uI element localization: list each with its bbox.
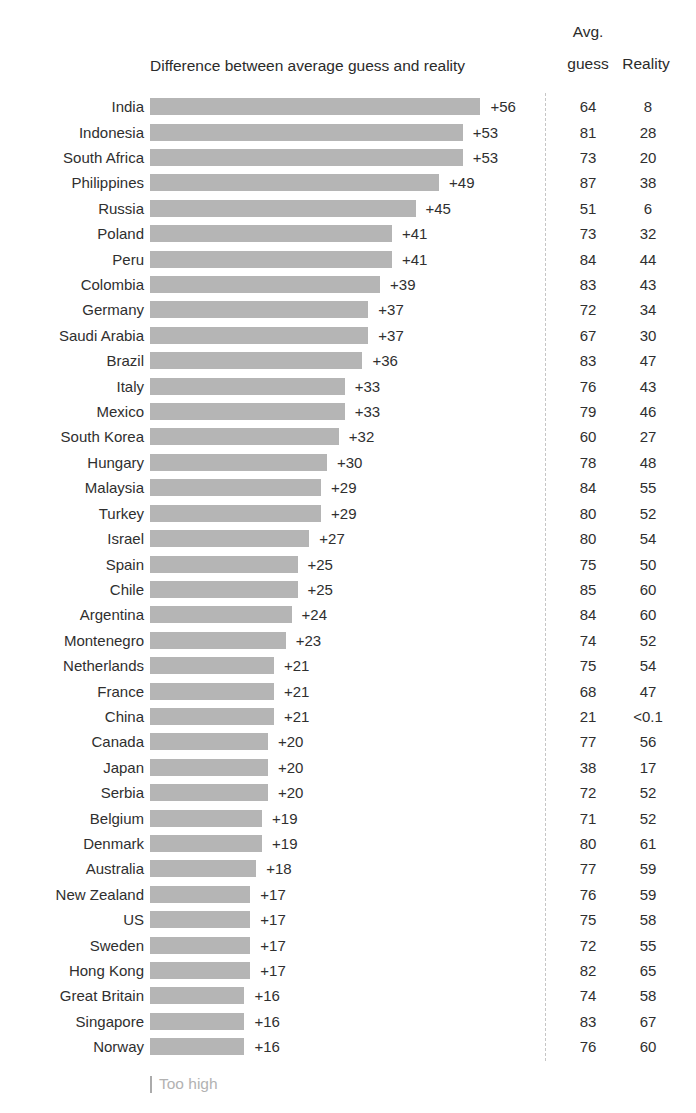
avg-guess-value: 84 bbox=[546, 606, 630, 623]
country-label: Philippines bbox=[0, 174, 144, 191]
avg-guess-value: 87 bbox=[546, 174, 630, 191]
difference-bar bbox=[150, 124, 463, 141]
difference-bar bbox=[150, 454, 327, 471]
avg-guess-value: 67 bbox=[546, 327, 630, 344]
avg-guess-value: 77 bbox=[546, 733, 630, 750]
bar-chart: Difference between average guess and rea… bbox=[0, 0, 696, 1113]
reality-value: 43 bbox=[628, 378, 668, 395]
difference-bar bbox=[150, 962, 250, 979]
avg-guess-value: 74 bbox=[546, 632, 630, 649]
difference-value: +32 bbox=[349, 428, 374, 445]
avg-guess-value: 84 bbox=[546, 479, 630, 496]
bar-area: +27 bbox=[150, 530, 546, 547]
avg-guess-value: 76 bbox=[546, 378, 630, 395]
difference-value: +33 bbox=[355, 403, 380, 420]
legend: Too high bbox=[150, 1075, 218, 1093]
bar-area: +19 bbox=[150, 835, 546, 852]
reality-value: 43 bbox=[628, 276, 668, 293]
country-label: Denmark bbox=[0, 835, 144, 852]
table-row: Russia +45 51 6 bbox=[0, 196, 696, 221]
difference-bar bbox=[150, 1038, 244, 1055]
difference-value: +19 bbox=[272, 810, 297, 827]
bar-area: +41 bbox=[150, 225, 546, 242]
difference-bar bbox=[150, 225, 392, 242]
avg-guess-value: 84 bbox=[546, 251, 630, 268]
country-label: Brazil bbox=[0, 352, 144, 369]
bar-area: +21 bbox=[150, 683, 546, 700]
difference-bar bbox=[150, 149, 463, 166]
avg-guess-value: 81 bbox=[546, 124, 630, 141]
country-label: China bbox=[0, 708, 144, 725]
reality-value: 32 bbox=[628, 225, 668, 242]
difference-bar bbox=[150, 327, 368, 344]
bar-area: +37 bbox=[150, 327, 546, 344]
country-label: Singapore bbox=[0, 1013, 144, 1030]
difference-bar bbox=[150, 251, 392, 268]
difference-bar bbox=[150, 403, 345, 420]
table-row: Netherlands +21 75 54 bbox=[0, 653, 696, 678]
reality-value: 52 bbox=[628, 632, 668, 649]
bar-area: +20 bbox=[150, 784, 546, 801]
avg-guess-value: 60 bbox=[546, 428, 630, 445]
reality-value: 58 bbox=[628, 987, 668, 1004]
country-label: Italy bbox=[0, 378, 144, 395]
bar-area: +17 bbox=[150, 911, 546, 928]
bar-area: +19 bbox=[150, 810, 546, 827]
legend-tick-icon bbox=[150, 1076, 152, 1093]
difference-bar bbox=[150, 632, 286, 649]
difference-bar bbox=[150, 606, 292, 623]
avg-guess-column-header-line1: Avg. bbox=[573, 22, 604, 42]
table-row: Brazil +36 83 47 bbox=[0, 348, 696, 373]
bar-area: +17 bbox=[150, 886, 546, 903]
reality-value: <0.1 bbox=[628, 708, 668, 725]
difference-value: +30 bbox=[337, 454, 362, 471]
country-label: Hungary bbox=[0, 454, 144, 471]
table-row: India +56 64 8 bbox=[0, 94, 696, 119]
avg-guess-value: 73 bbox=[546, 149, 630, 166]
difference-bar bbox=[150, 860, 256, 877]
reality-value: 52 bbox=[628, 784, 668, 801]
bar-area: +16 bbox=[150, 1038, 546, 1055]
chart-rows: India +56 64 8 Indonesia +53 81 28 South… bbox=[0, 94, 696, 1059]
difference-bar bbox=[150, 708, 274, 725]
avg-guess-value: 64 bbox=[546, 98, 630, 115]
table-row: Canada +20 77 56 bbox=[0, 729, 696, 754]
difference-value: +16 bbox=[254, 1038, 279, 1055]
avg-guess-value: 83 bbox=[546, 276, 630, 293]
difference-value: +29 bbox=[331, 505, 356, 522]
avg-guess-value: 72 bbox=[546, 784, 630, 801]
difference-value: +20 bbox=[278, 784, 303, 801]
table-row: Poland +41 73 32 bbox=[0, 221, 696, 246]
country-label: South Korea bbox=[0, 428, 144, 445]
difference-value: +19 bbox=[272, 835, 297, 852]
country-label: Sweden bbox=[0, 937, 144, 954]
difference-value: +49 bbox=[449, 174, 474, 191]
bar-area: +21 bbox=[150, 708, 546, 725]
reality-value: 20 bbox=[628, 149, 668, 166]
country-label: Colombia bbox=[0, 276, 144, 293]
reality-value: 67 bbox=[628, 1013, 668, 1030]
country-label: Peru bbox=[0, 251, 144, 268]
difference-value: +24 bbox=[302, 606, 327, 623]
difference-bar bbox=[150, 937, 250, 954]
difference-bar bbox=[150, 1013, 244, 1030]
table-row: South Africa +53 73 20 bbox=[0, 145, 696, 170]
reality-value: 59 bbox=[628, 886, 668, 903]
bar-area: +17 bbox=[150, 962, 546, 979]
bar-area: +25 bbox=[150, 556, 546, 573]
reality-value: 52 bbox=[628, 810, 668, 827]
table-row: Serbia +20 72 52 bbox=[0, 780, 696, 805]
bar-area: +36 bbox=[150, 352, 546, 369]
difference-bar bbox=[150, 530, 309, 547]
difference-bar bbox=[150, 378, 345, 395]
difference-value: +45 bbox=[426, 200, 451, 217]
bar-area: +20 bbox=[150, 759, 546, 776]
reality-value: 56 bbox=[628, 733, 668, 750]
bar-area: +23 bbox=[150, 632, 546, 649]
difference-bar bbox=[150, 733, 268, 750]
difference-value: +53 bbox=[473, 124, 498, 141]
avg-guess-value: 72 bbox=[546, 937, 630, 954]
difference-bar bbox=[150, 886, 250, 903]
avg-guess-value: 83 bbox=[546, 352, 630, 369]
difference-bar bbox=[150, 98, 480, 115]
